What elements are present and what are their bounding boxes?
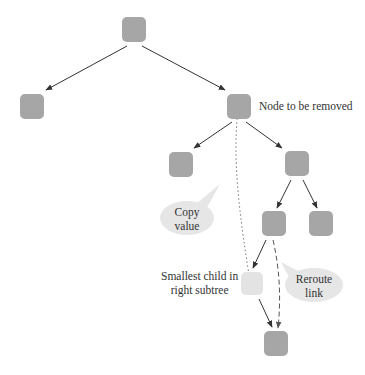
copy-value-line2: value [162, 219, 212, 233]
node-to-be-removed-label: Node to be removed [259, 99, 353, 113]
left-child-node [20, 94, 44, 119]
removed-right-child-node [285, 151, 309, 176]
right-subtree-right-node [309, 211, 333, 236]
reroute-link-line1: Reroute [287, 272, 341, 286]
reroute-link-text: Reroute link [287, 272, 341, 300]
reroute-link-line2: link [287, 286, 341, 300]
copy-value-line1: Copy [162, 205, 212, 219]
smallest-child-label: Smallest child in right subtree [161, 269, 238, 297]
removed-left-child-node [169, 152, 193, 177]
edges-layer [0, 0, 365, 375]
copy-value-text: Copy value [162, 205, 212, 233]
right-subtree-left-node [262, 211, 286, 236]
smallest-child-label-line1: Smallest child in [161, 269, 238, 283]
root-node [122, 17, 146, 42]
reroute-link-path [273, 240, 280, 328]
copy-value-path [236, 111, 251, 287]
smallest-child-label-line2: right subtree [161, 283, 238, 297]
smallest-child-right-node [264, 331, 288, 356]
smallest-child-node [241, 272, 263, 295]
node-to-be-removed [227, 94, 251, 119]
tree-diagram: Node to be removed Smallest child in rig… [0, 0, 365, 375]
